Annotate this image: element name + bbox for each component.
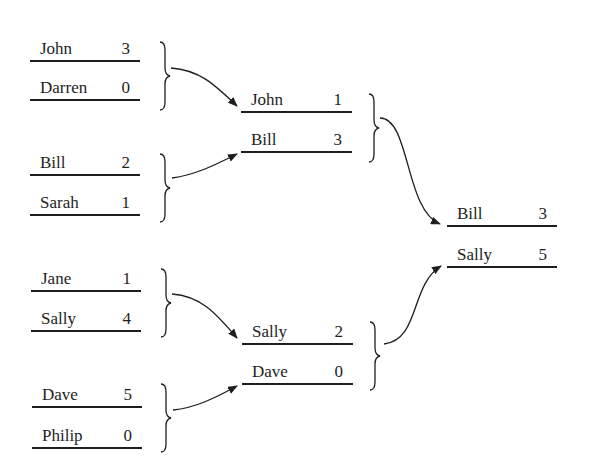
player-name: Sally [457,246,492,264]
player-score: 0 [335,363,344,381]
round1-match1-player2: Darren 0 [30,79,140,101]
round1-match3-player2: Sally 4 [31,310,141,332]
player-score: 5 [124,386,133,404]
player-score: 2 [335,323,344,341]
round2-match2-player2: Dave 0 [242,363,353,385]
arrow-icon [380,118,440,224]
player-name: Sally [252,323,287,341]
player-score: 0 [122,79,131,97]
brace-icon [160,42,170,110]
player-name: Dave [252,363,288,381]
round1-match2-player1: Bill 2 [30,154,140,176]
player-name: Philip [42,427,83,445]
player-score: 3 [539,205,548,223]
player-score: 2 [122,154,131,172]
player-name: Bill [251,131,277,149]
player-name: John [251,91,283,109]
player-name: Bill [40,154,66,172]
player-name: Sally [41,310,76,328]
arrow-icon [173,386,237,410]
player-name: Jane [41,270,71,288]
round1-match4-player1: Dave 5 [32,386,142,408]
player-score: 3 [334,131,343,149]
round2-match1-player1: John 1 [241,91,352,113]
player-score: 3 [122,40,131,58]
player-name: Sarah [40,194,79,212]
player-name: John [40,40,72,58]
player-score: 5 [539,246,548,264]
player-score: 1 [334,91,343,109]
arrow-icon [171,68,237,106]
arrow-icon [172,294,237,338]
final-player2: Sally 5 [447,246,557,268]
player-score: 1 [123,270,132,288]
round1-match2-player2: Sarah 1 [30,194,140,216]
round2-match2-player1: Sally 2 [242,323,353,345]
round2-match1-player2: Bill 3 [241,131,352,153]
brace-icon [369,94,379,162]
round1-match4-player2: Philip 0 [32,427,142,449]
brace-icon [161,384,171,452]
arrow-icon [384,266,441,344]
brace-icon [161,269,171,337]
player-score: 4 [123,310,132,328]
brace-icon [370,322,380,390]
final-player1: Bill 3 [447,205,557,227]
player-score: 1 [122,194,131,212]
round1-match3-player1: Jane 1 [31,270,141,292]
player-name: Bill [457,205,483,223]
arrow-icon [172,154,237,178]
player-name: Darren [40,79,87,97]
player-score: 0 [124,427,133,445]
player-name: Dave [42,386,78,404]
brace-icon [160,154,170,222]
round1-match1-player1: John 3 [30,40,140,62]
